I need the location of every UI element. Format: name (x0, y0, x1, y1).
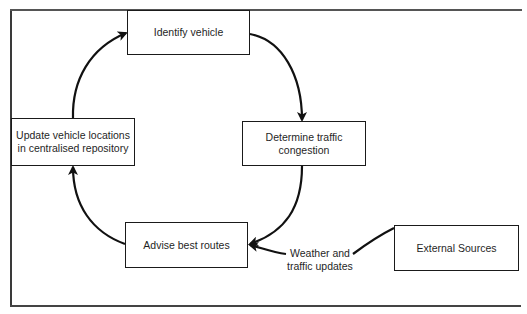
node-update-vehicle-locations: Update vehicle locations in centralised … (11, 118, 135, 166)
node-label: External Sources (417, 242, 497, 255)
node-label: Identify vehicle (154, 26, 223, 39)
node-label: Advise best routes (143, 239, 229, 252)
edge-label-weather-traffic-updates: Weather and traffic updates (284, 247, 356, 273)
node-label: Update vehicle locations in centralised … (16, 129, 130, 155)
edge-update-to-identify (73, 33, 126, 118)
edge-advise-to-update (73, 167, 125, 244)
edge-external-to-label (353, 228, 394, 254)
node-determine-traffic-congestion: Determine traffic congestion (242, 121, 366, 166)
node-advise-best-routes: Advise best routes (125, 222, 248, 268)
node-identify-vehicle: Identify vehicle (127, 10, 250, 55)
frame-top-border (10, 9, 522, 11)
node-external-sources: External Sources (394, 225, 519, 271)
node-label: Determine traffic congestion (259, 131, 349, 157)
frame-bottom-border (10, 305, 521, 307)
edge-label-to-advise (250, 245, 286, 254)
edge-identify-to-determine (250, 34, 302, 120)
edge-determine-to-advise (250, 166, 302, 244)
